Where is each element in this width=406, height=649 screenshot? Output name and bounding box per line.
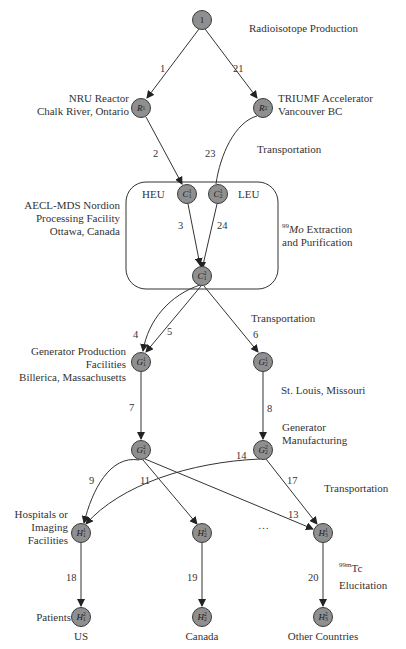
edge-label-19: 19 [187,572,198,584]
stage-elucitation: Elucitation [339,579,387,592]
edge-label-7: 7 [129,402,134,414]
edge-label-14: 14 [236,450,247,462]
edge-label-11: 11 [140,475,150,487]
edge-4 [143,285,200,351]
stage-tc-label: 99mTc [339,559,362,575]
node-h11: H11 [71,523,91,543]
edge-14 [86,459,260,524]
edge-3 [188,204,200,265]
stage-transportation-2: Transportation [251,312,315,325]
edge-6 [204,286,258,352]
edge-label-18: 18 [66,572,77,584]
node-h12: H12 [192,523,212,543]
label-other-countries: Other Countries [278,630,368,643]
edge-label-21: 21 [233,63,244,75]
ellipsis: … [258,519,269,532]
node-g12: G12 [253,352,273,372]
node-g11: G11 [131,352,151,372]
node-r2: R2 [253,98,273,118]
edge-label-3: 3 [178,220,183,232]
node-c12: C12 [208,184,228,204]
stage-generator-manufacturing: Generator Manufacturing [282,421,347,447]
edge-1 [147,29,199,98]
label-st-louis: St. Louis, Missouri [281,384,365,397]
edge-label-17: 17 [287,475,298,487]
edge-9 [84,460,139,523]
stage-transportation-3: Transportation [324,482,388,495]
node-h13: H13 [313,523,333,543]
node-r1: R1 [131,98,151,118]
edge-label-1: 1 [160,63,165,75]
label-leu: LEU [238,188,259,201]
edge-label-6: 6 [253,329,258,341]
node-h21: H21 [71,607,91,627]
edge-23 [216,116,257,184]
edge-24 [203,204,217,265]
edge-label-13: 13 [288,509,299,521]
label-nru-reactor: NRU Reactor Chalk River, Ontario [37,92,129,118]
edge-label-24: 24 [217,220,228,232]
label-us: US [66,630,96,643]
edge-2 [146,117,182,184]
edge-label-4: 4 [133,329,138,341]
stage-extraction: 99Mo Extraction and Purification [282,220,353,249]
label-heu: HEU [142,188,165,201]
edge-label-20: 20 [308,572,319,584]
node-g22: G22 [253,440,273,460]
edge-label-2: 2 [153,148,158,160]
supply-chain-diagram: 1 21 2 23 3 24 4 5 6 7 8 9 11 13 14 17 1… [0,0,406,649]
label-triumf: TRIUMF Accelerator Vancouver BC [278,92,373,118]
edge-label-5: 5 [167,326,172,338]
edge-21 [205,29,257,98]
stage-transportation-1: Transportation [257,143,321,156]
label-aecl: AECL-MDS Nordion Processing Facility Ott… [24,199,120,238]
node-c11: C11 [177,184,197,204]
node-h22: H22 [192,607,212,627]
node-g21: G21 [131,440,151,460]
label-canada: Canada [172,630,232,643]
label-hospitals: Hospitals or Imaging Facilities [15,508,68,547]
label-patients: Patients [36,611,71,624]
stage-radioisotope-production: Radioisotope Production [249,22,358,35]
node-origin: 1 [192,10,212,30]
label-generator-production: Generator Production Facilities Billeric… [19,345,126,384]
edge-label-8: 8 [267,403,272,415]
edge-5 [146,286,201,352]
node-h23: H23 [313,607,333,627]
edge-label-9: 9 [89,475,94,487]
edge-label-23: 23 [205,148,216,160]
node-c21: C21 [192,266,212,286]
